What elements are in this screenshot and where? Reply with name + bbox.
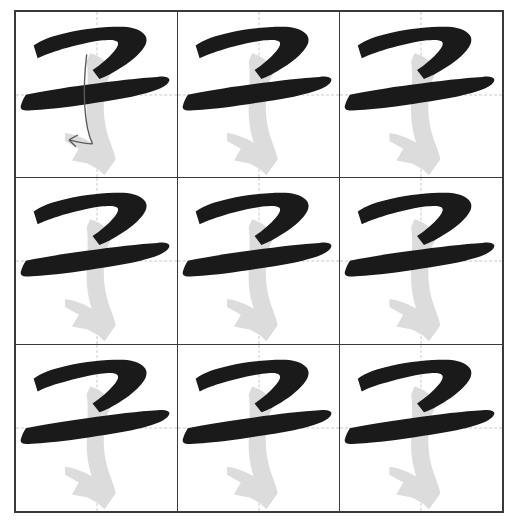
character-svg: [340, 178, 502, 343]
character-glyph-zi: [340, 178, 502, 343]
practice-cell-1[interactable]: [16, 12, 178, 178]
character-glyph-zi: [16, 345, 177, 511]
practice-cell-9[interactable]: [340, 345, 502, 511]
character-svg: [340, 12, 502, 177]
character-glyph-zi: [16, 178, 177, 343]
character-svg: [340, 345, 502, 511]
practice-cell-6[interactable]: [340, 178, 502, 344]
character-glyph-zi: [340, 12, 502, 177]
practice-cell-8[interactable]: [178, 345, 340, 511]
character-svg: [178, 178, 339, 343]
practice-cell-4[interactable]: [16, 178, 178, 344]
practice-grid: [14, 10, 504, 513]
character-glyph-zi: [178, 345, 339, 511]
character-glyph-zi: [340, 345, 502, 511]
practice-cell-5[interactable]: [178, 178, 340, 344]
character-glyph-zi: [178, 12, 339, 177]
character-glyph-zi: [16, 12, 177, 177]
character-svg: [16, 12, 177, 177]
character-svg: [178, 345, 339, 511]
stroke-order-worksheet: [0, 0, 516, 529]
practice-cell-3[interactable]: [340, 12, 502, 178]
practice-cell-7[interactable]: [16, 345, 178, 511]
practice-cell-2[interactable]: [178, 12, 340, 178]
character-svg: [178, 12, 339, 177]
character-svg: [16, 178, 177, 343]
character-glyph-zi: [178, 178, 339, 343]
character-svg: [16, 345, 177, 511]
